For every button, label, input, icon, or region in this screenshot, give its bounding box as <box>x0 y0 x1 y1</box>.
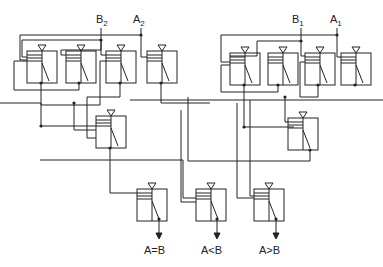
output-label-a-less-b: A<B <box>201 245 222 256</box>
input-label-a2: A2 <box>133 14 145 25</box>
input-label-b2: B2 <box>96 14 108 25</box>
input-label-b1: B1 <box>292 14 304 25</box>
input-label-a1: A1 <box>330 14 342 25</box>
output-label-a-equals-b: A=B <box>144 245 165 256</box>
circuit-diagram: B2 A2 B1 A1 A=B A<B A>B <box>0 0 383 267</box>
circuit-wiring <box>0 0 383 267</box>
output-label-a-greater-b: A>B <box>259 245 280 256</box>
